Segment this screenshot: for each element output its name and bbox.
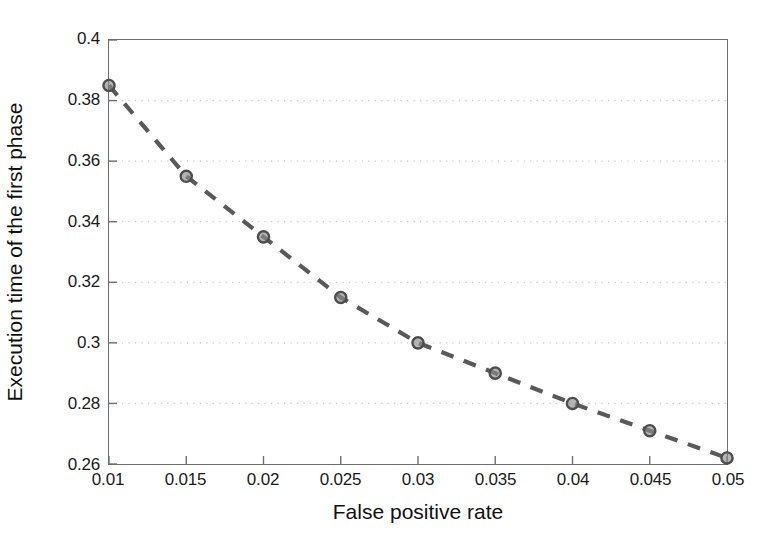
data-point-marker — [567, 398, 578, 409]
x-axis-tick-label: 0.04 — [557, 470, 589, 490]
chart-figure: Execution time of the first phase 0.260.… — [0, 0, 783, 545]
data-point-marker — [721, 452, 732, 463]
plot-area — [108, 39, 728, 465]
data-point-marker — [103, 80, 114, 91]
x-axis-tick-label: 0.01 — [92, 470, 124, 490]
y-axis-tick-label: 0.32 — [68, 272, 100, 292]
y-axis-tick-label: 0.4 — [77, 29, 100, 49]
data-point-marker — [335, 292, 346, 303]
y-axis-tick-label: 0.28 — [68, 394, 100, 414]
y-axis-tick-labels: 0.260.280.30.320.340.360.380.4 — [0, 39, 100, 465]
y-axis-tick-label: 0.38 — [68, 90, 100, 110]
data-point-marker — [181, 171, 192, 182]
x-axis-tick-label: 0.05 — [712, 470, 744, 490]
plot-canvas — [109, 40, 727, 464]
y-axis-tick-label: 0.3 — [77, 333, 100, 353]
data-point-markers — [103, 80, 732, 464]
y-axis-tick-label: 0.34 — [68, 212, 100, 232]
data-point-marker — [258, 231, 269, 242]
x-axis-title: False positive rate — [108, 500, 728, 524]
data-point-marker — [644, 425, 655, 436]
y-axis-tick-marks — [109, 40, 117, 464]
gridlines — [109, 101, 727, 404]
x-axis-tick-label: 0.045 — [630, 470, 672, 490]
x-axis-tick-label: 0.035 — [475, 470, 517, 490]
x-axis-tick-label: 0.025 — [320, 470, 362, 490]
x-axis-tick-label: 0.015 — [165, 470, 207, 490]
data-point-marker — [412, 337, 423, 348]
data-point-marker — [490, 368, 501, 379]
x-axis-tick-label: 0.03 — [402, 470, 434, 490]
x-axis-tick-labels: 0.010.0150.020.0250.030.0350.040.0450.05 — [108, 470, 728, 496]
x-axis-tick-label: 0.02 — [247, 470, 279, 490]
y-axis-tick-label: 0.36 — [68, 151, 100, 171]
x-axis-tick-marks — [109, 456, 727, 464]
data-line-series-1 — [109, 85, 727, 458]
